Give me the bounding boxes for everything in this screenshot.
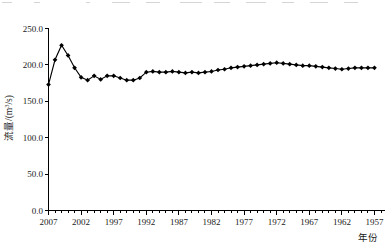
y-axis-tick-labels: 0.0 50.0 100.0 150.0 200.0 250.0 xyxy=(23,24,44,216)
data-point-1969 xyxy=(294,63,299,68)
data-point-1971 xyxy=(281,61,286,66)
y-axis-title-main: 流量/(m xyxy=(3,107,15,141)
y-axis-title: 流量/(m3/s) xyxy=(3,95,15,141)
x-tick-label-1987: 1987 xyxy=(170,217,189,227)
data-point-1978 xyxy=(235,65,240,70)
x-tick-label-1972: 1972 xyxy=(268,217,286,227)
series-markers xyxy=(46,43,377,87)
cropped-text-artifact xyxy=(0,0,387,6)
x-tick-label-2007: 2007 xyxy=(40,217,59,227)
x-tick-label-1967: 1967 xyxy=(300,217,319,227)
data-point-1980 xyxy=(222,67,227,72)
x-tick-label-2002: 2002 xyxy=(72,217,90,227)
data-point-1998 xyxy=(105,73,110,78)
data-point-1990 xyxy=(157,70,162,75)
y-tick-label-150: 150.0 xyxy=(23,96,44,106)
data-point-1987 xyxy=(177,70,182,75)
data-point-2007 xyxy=(46,82,51,87)
y-tick-label-250: 250.0 xyxy=(23,24,44,34)
x-tick-label-1962: 1962 xyxy=(333,217,351,227)
data-point-1989 xyxy=(164,70,169,75)
data-point-1984 xyxy=(196,71,201,76)
data-point-1960 xyxy=(353,65,358,70)
y-axis-title-tail: /s) xyxy=(4,95,15,105)
data-point-1967 xyxy=(307,63,312,68)
x-axis-title: 年份 xyxy=(358,232,378,243)
data-point-1964 xyxy=(326,65,331,70)
y-tick-label-50: 50.0 xyxy=(27,169,43,179)
data-point-1970 xyxy=(287,62,292,67)
data-point-1996 xyxy=(118,76,123,81)
data-point-1972 xyxy=(274,60,279,65)
y-tick-label-100: 100.0 xyxy=(23,133,44,143)
data-point-1965 xyxy=(320,65,325,70)
data-point-1995 xyxy=(124,78,129,83)
data-point-1966 xyxy=(313,64,318,69)
x-tick-label-1957: 1957 xyxy=(365,217,384,227)
data-point-1982 xyxy=(209,69,214,74)
y-tick-label-200: 200.0 xyxy=(23,60,44,70)
chart-canvas: 流量/(m3/s) 0.0 50.0 100.0 150.0 200.0 250… xyxy=(0,0,387,248)
data-point-1997 xyxy=(111,73,116,78)
data-point-2006 xyxy=(53,57,58,62)
data-point-1981 xyxy=(216,68,221,73)
data-point-1985 xyxy=(190,70,195,75)
data-point-1983 xyxy=(203,70,208,75)
data-point-1988 xyxy=(170,69,175,74)
data-point-1986 xyxy=(183,71,188,76)
data-point-1958 xyxy=(366,65,371,70)
x-tick-label-1997: 1997 xyxy=(105,217,124,227)
data-point-1999 xyxy=(98,77,103,82)
data-point-1994 xyxy=(131,78,136,83)
x-tick-label-1992: 1992 xyxy=(137,217,155,227)
flow-rate-line-chart: 流量/(m3/s) 0.0 50.0 100.0 150.0 200.0 250… xyxy=(0,0,387,248)
y-axis-tick-marks xyxy=(45,29,49,211)
data-point-1974 xyxy=(261,62,266,67)
axis-lines xyxy=(49,28,386,211)
data-point-1963 xyxy=(333,66,338,71)
data-point-1959 xyxy=(359,65,364,70)
x-tick-label-1977: 1977 xyxy=(235,217,254,227)
data-point-1979 xyxy=(229,65,234,70)
data-point-1961 xyxy=(346,66,351,71)
data-point-1991 xyxy=(150,69,155,74)
svg-text:流量/(m3/s): 流量/(m3/s) xyxy=(3,95,15,141)
y-tick-label-0: 0.0 xyxy=(32,206,44,216)
data-point-1973 xyxy=(268,61,273,66)
data-point-1976 xyxy=(248,63,253,68)
x-tick-label-1982: 1982 xyxy=(202,217,220,227)
data-point-1977 xyxy=(242,64,247,69)
data-point-1957 xyxy=(372,65,377,70)
data-series-flow xyxy=(46,43,377,87)
series-line-path xyxy=(49,45,375,84)
data-point-1968 xyxy=(300,63,305,68)
data-point-1975 xyxy=(255,63,260,68)
x-axis-ticks-and-labels: 2007200219971992198719821977197219671962… xyxy=(40,211,384,227)
data-point-1962 xyxy=(340,67,345,72)
